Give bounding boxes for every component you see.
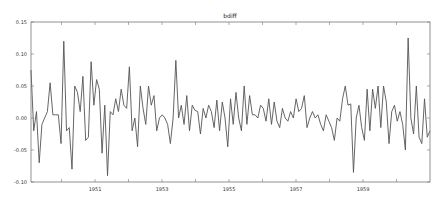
x-tick-label: 1955 [223, 186, 236, 192]
y-tick-label: 0.10 [16, 51, 27, 57]
x-tick-label: 1959 [357, 186, 370, 192]
x-tick-label: 1953 [156, 186, 169, 192]
y-tick-label: -0.10 [14, 179, 27, 185]
chart-background [0, 0, 444, 199]
y-tick-label: -0.05 [14, 147, 27, 153]
chart-title: bdiff [223, 12, 237, 19]
x-tick-label: 1951 [89, 186, 102, 192]
line-chart: bdiff 0.150.100.050.00-0.05-0.10 1951195… [0, 0, 444, 199]
y-tick-label: 0.00 [16, 115, 27, 121]
x-tick-label: 1957 [290, 186, 303, 192]
y-tick-label: 0.15 [16, 19, 27, 25]
y-tick-label: 0.05 [16, 83, 27, 89]
